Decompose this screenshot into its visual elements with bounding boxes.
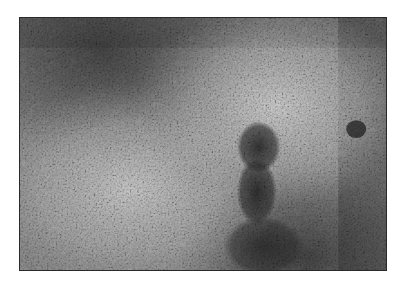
tissue-texture	[20, 18, 386, 270]
micrograph-image: Grayscale micrograph of densely packed l…	[19, 17, 387, 271]
page: Grayscale micrograph of densely packed l…	[0, 0, 406, 283]
